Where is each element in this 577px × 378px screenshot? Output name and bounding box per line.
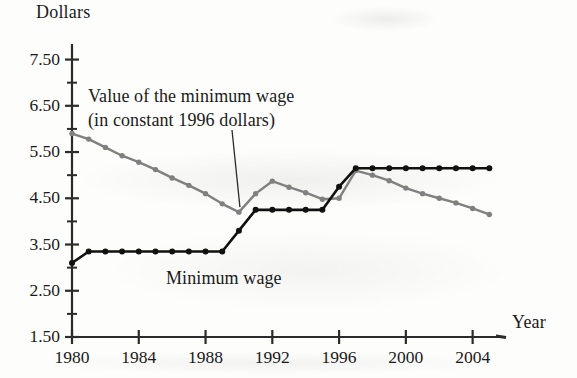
data-point-nominal-wage <box>369 165 375 171</box>
data-point-real-wage <box>136 160 141 165</box>
data-point-real-wage <box>253 191 258 196</box>
data-point-real-wage <box>487 212 492 217</box>
data-point-real-wage <box>453 200 458 205</box>
data-point-nominal-wage <box>119 248 125 254</box>
data-point-real-wage <box>203 191 208 196</box>
data-point-real-wage <box>270 178 275 183</box>
data-point-real-wage <box>220 201 225 206</box>
data-point-nominal-wage <box>286 207 292 213</box>
series-line-real-wage <box>72 134 489 215</box>
data-point-real-wage <box>403 185 408 190</box>
y-axis-tick-label: 4.50 <box>8 187 60 208</box>
data-point-real-wage <box>437 196 442 201</box>
data-point-real-wage <box>386 178 391 183</box>
data-point-nominal-wage <box>186 248 192 254</box>
data-point-nominal-wage <box>203 248 209 254</box>
data-point-real-wage <box>186 183 191 188</box>
y-axis-tick-label: 6.50 <box>8 95 60 116</box>
data-point-nominal-wage <box>453 165 459 171</box>
chart-figure: Dollars Year 1.502.503.504.505.506.507.5… <box>0 0 577 378</box>
data-point-real-wage <box>286 184 291 189</box>
series-label-real-wage-line1: Value of the minimum wage <box>88 86 294 107</box>
y-axis-title: Dollars <box>36 2 90 23</box>
data-point-nominal-wage <box>219 248 225 254</box>
x-axis-tick-label: 1984 <box>110 347 168 368</box>
data-point-nominal-wage <box>236 228 242 234</box>
data-point-nominal-wage <box>436 165 442 171</box>
x-axis-end-cap <box>496 336 506 338</box>
plot-area <box>0 0 577 378</box>
x-axis-tick-label: 1992 <box>243 347 301 368</box>
x-axis-tick-label: 1996 <box>310 347 368 368</box>
data-point-real-wage <box>420 191 425 196</box>
data-point-nominal-wage <box>152 248 158 254</box>
data-point-real-wage <box>169 175 174 180</box>
data-point-nominal-wage <box>386 165 392 171</box>
data-point-nominal-wage <box>403 165 409 171</box>
data-point-nominal-wage <box>353 165 359 171</box>
series-label-nominal-wage: Minimum wage <box>166 268 282 289</box>
data-point-real-wage <box>119 153 124 158</box>
data-point-real-wage <box>370 172 375 177</box>
data-point-real-wage <box>236 209 241 214</box>
data-point-nominal-wage <box>136 248 142 254</box>
data-point-real-wage <box>320 197 325 202</box>
data-point-nominal-wage <box>86 248 92 254</box>
data-point-nominal-wage <box>336 184 342 190</box>
data-point-nominal-wage <box>253 207 259 213</box>
series-line-nominal-wage <box>72 168 489 263</box>
data-point-nominal-wage <box>319 207 325 213</box>
data-point-nominal-wage <box>102 248 108 254</box>
x-axis-tick-label: 2000 <box>377 347 435 368</box>
data-point-nominal-wage <box>169 248 175 254</box>
data-point-nominal-wage <box>69 260 75 266</box>
data-point-nominal-wage <box>269 207 275 213</box>
y-axis-tick-label: 7.50 <box>8 49 60 70</box>
y-axis-tick-label: 5.50 <box>8 141 60 162</box>
x-axis-tick-label: 1980 <box>43 347 101 368</box>
y-axis-tick-label: 2.50 <box>8 280 60 301</box>
data-point-real-wage <box>153 167 158 172</box>
annotation-leader-line <box>232 130 240 207</box>
x-axis-title: Year <box>512 312 546 333</box>
data-point-nominal-wage <box>470 165 476 171</box>
x-axis-tick-label: 1988 <box>177 347 235 368</box>
y-axis-tick-label: 3.50 <box>8 234 60 255</box>
data-point-real-wage <box>69 131 74 136</box>
data-point-nominal-wage <box>420 165 426 171</box>
data-point-nominal-wage <box>303 207 309 213</box>
x-axis-tick-label: 2004 <box>444 347 502 368</box>
series-label-real-wage-line2: (in constant 1996 dollars) <box>88 110 275 131</box>
data-point-real-wage <box>470 206 475 211</box>
data-point-real-wage <box>336 196 341 201</box>
y-axis-tick-label: 1.50 <box>8 326 60 347</box>
data-point-real-wage <box>86 136 91 141</box>
data-point-real-wage <box>103 145 108 150</box>
data-point-real-wage <box>303 190 308 195</box>
data-point-nominal-wage <box>486 165 492 171</box>
